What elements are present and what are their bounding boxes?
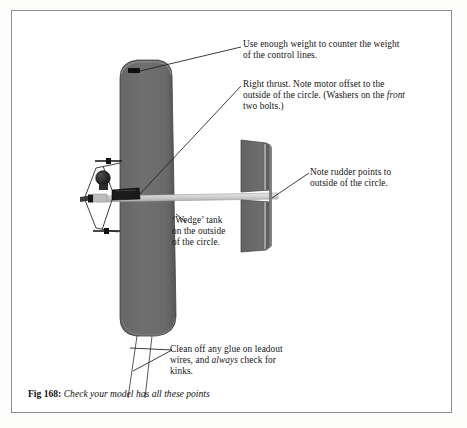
- annotation-wedge-tank: ‘Wedge’ tank on the outside of the circl…: [172, 215, 268, 249]
- rudder-trailing-edge: [269, 145, 272, 248]
- annotation-leadout-wires: Clean off any glue on leadout wires, and…: [170, 344, 350, 378]
- annotation-right-thrust-line2: outside of the circle. (Washers on the f…: [243, 90, 457, 101]
- figure-caption-body: Check your model has all these points: [64, 388, 210, 399]
- annotation-wedge-tank-line2: on the outside: [172, 226, 268, 237]
- propeller: [80, 195, 93, 203]
- annotation-right-thrust-emphasis: front: [387, 90, 405, 100]
- figure-caption-label: Fig 168:: [28, 388, 61, 399]
- annotation-wedge-tank-line3: of the circle.: [172, 237, 268, 248]
- annotation-tip-weight: Use enough weight to counter the weight …: [243, 39, 459, 61]
- wedge-tank: [112, 188, 140, 200]
- annotation-leadout-line2: wires, and always check for: [170, 355, 350, 366]
- annotation-rudder: Note rudder points to outside of the cir…: [310, 167, 460, 189]
- annotation-leadout-line2-text-a: wires, and: [170, 355, 212, 365]
- tailplane-upper-half: [241, 140, 270, 192]
- annotation-right-thrust-line3: two bolts.): [243, 101, 457, 112]
- annotation-tip-weight-line2: of the control lines.: [243, 50, 459, 61]
- annotation-rudder-line2: outside of the circle.: [310, 178, 460, 189]
- figure-container: Use enough weight to counter the weight …: [0, 0, 467, 428]
- annotation-leadout-emphasis: always: [212, 355, 238, 365]
- annotation-right-thrust-line2-text: outside of the circle. (Washers on the: [243, 90, 387, 100]
- annotation-rudder-line1: Note rudder points to: [310, 167, 460, 178]
- annotation-leadout-line1: Clean off any glue on leadout: [170, 344, 350, 355]
- annotation-leadout-line3: kinks.: [170, 366, 350, 377]
- annotation-leadout-line2-text-b: check for: [238, 355, 276, 365]
- annotation-tip-weight-line1: Use enough weight to counter the weight: [243, 39, 459, 50]
- figure-caption: Fig 168: Check your model has all these …: [28, 388, 210, 400]
- annotation-right-thrust-line1: Right thrust. Note motor offset to the: [243, 79, 457, 90]
- tip-weight-box: [128, 68, 140, 73]
- annotation-wedge-tank-line1: ‘Wedge’ tank: [172, 215, 268, 226]
- annotation-right-thrust: Right thrust. Note motor offset to the o…: [243, 79, 457, 113]
